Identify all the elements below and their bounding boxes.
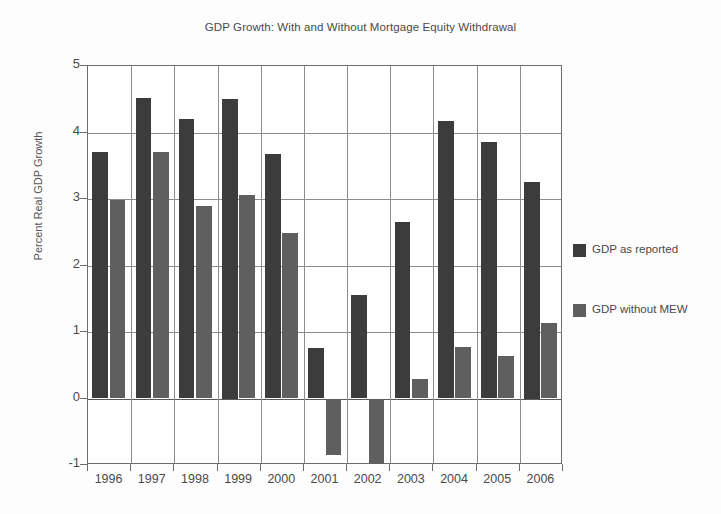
bar xyxy=(308,348,324,399)
bar xyxy=(110,200,126,399)
y-tick-label: 5 xyxy=(52,56,80,71)
y-tick-label: 0 xyxy=(52,389,80,404)
bar xyxy=(265,154,281,399)
gridline-vertical xyxy=(174,66,175,463)
legend-entry[interactable]: GDP without MEW xyxy=(573,303,688,317)
bar xyxy=(498,356,514,399)
x-tick-mark xyxy=(389,464,390,471)
y-tick-label: 3 xyxy=(52,189,80,204)
bar xyxy=(92,152,108,398)
gridline-vertical xyxy=(520,66,521,463)
bar xyxy=(179,119,195,398)
bar xyxy=(438,121,454,398)
gridline-horizontal xyxy=(88,133,561,134)
bar xyxy=(239,195,255,398)
legend-swatch-icon xyxy=(573,244,586,257)
bar xyxy=(153,152,169,398)
legend-label: GDP without MEW xyxy=(592,303,688,317)
x-tick-mark xyxy=(562,464,563,471)
x-tick-label: 2006 xyxy=(512,472,568,486)
x-tick-mark xyxy=(432,464,433,471)
x-tick-mark xyxy=(87,464,88,471)
zero-line xyxy=(88,399,561,400)
bar xyxy=(196,206,212,398)
y-tick-label: 4 xyxy=(52,123,80,138)
y-tick-mark xyxy=(80,464,87,465)
y-tick-label: 2 xyxy=(52,256,80,271)
bar xyxy=(351,295,367,399)
x-tick-mark xyxy=(346,464,347,471)
gridline-vertical xyxy=(218,66,219,463)
bar xyxy=(395,222,411,399)
x-tick-mark xyxy=(260,464,261,471)
bar xyxy=(282,233,298,399)
bar xyxy=(455,347,471,398)
bar xyxy=(222,99,238,398)
bar xyxy=(412,379,428,399)
y-tick-mark xyxy=(80,65,87,66)
bar xyxy=(369,399,385,464)
plot-area xyxy=(87,65,562,464)
y-tick-mark xyxy=(80,398,87,399)
x-tick-mark xyxy=(130,464,131,471)
bar xyxy=(136,98,152,399)
legend-entry[interactable]: GDP as reported xyxy=(573,243,678,257)
bar xyxy=(326,399,342,456)
chart-title: GDP Growth: With and Without Mortgage Eq… xyxy=(0,21,721,33)
gridline-vertical xyxy=(477,66,478,463)
y-axis-label: Percent Real GDP Growth xyxy=(32,96,44,296)
y-tick-mark xyxy=(80,198,87,199)
gridline-vertical xyxy=(261,66,262,463)
x-tick-mark xyxy=(519,464,520,471)
x-tick-mark xyxy=(217,464,218,471)
y-tick-mark xyxy=(80,331,87,332)
legend-label: GDP as reported xyxy=(592,243,678,257)
gridline-vertical xyxy=(304,66,305,463)
gridline-vertical xyxy=(131,66,132,463)
x-tick-mark xyxy=(173,464,174,471)
bar xyxy=(481,142,497,398)
y-tick-mark xyxy=(80,132,87,133)
y-tick-label: -1 xyxy=(52,455,80,470)
gridline-vertical xyxy=(347,66,348,463)
y-tick-label: 1 xyxy=(52,322,80,337)
x-tick-mark xyxy=(476,464,477,471)
bar xyxy=(524,182,540,398)
x-tick-mark xyxy=(303,464,304,471)
chart-figure: GDP Growth: With and Without Mortgage Eq… xyxy=(0,0,721,514)
gridline-vertical xyxy=(433,66,434,463)
legend-swatch-icon xyxy=(573,304,586,317)
gridline-vertical xyxy=(390,66,391,463)
y-tick-mark xyxy=(80,265,87,266)
bar xyxy=(541,323,557,399)
